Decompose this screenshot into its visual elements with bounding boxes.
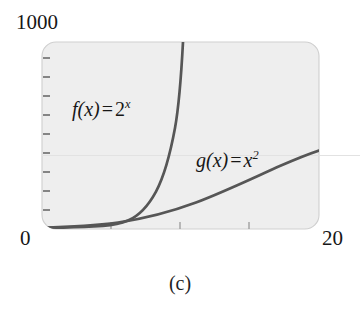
figure-caption: (c) — [0, 272, 360, 295]
plot-area — [42, 42, 319, 229]
curve-label-g-exponent: 2 — [252, 148, 258, 162]
curve-label-f-exponent: x — [125, 97, 131, 111]
curve-label-f-base: 2 — [115, 98, 125, 120]
figure-panel-c: 1000 0 20 — [0, 0, 360, 324]
curve-label-g: g(x)=x2 — [196, 150, 259, 170]
curve-label-g-operator: = — [228, 149, 243, 171]
curve-label-f-operator: = — [100, 98, 115, 120]
curve-label-g-name: g — [196, 149, 206, 171]
curve-label-g-arg: (x) — [206, 149, 228, 171]
curve-label-f-arg: (x) — [78, 98, 100, 120]
curve-label-f: f(x)=2x — [72, 99, 131, 119]
